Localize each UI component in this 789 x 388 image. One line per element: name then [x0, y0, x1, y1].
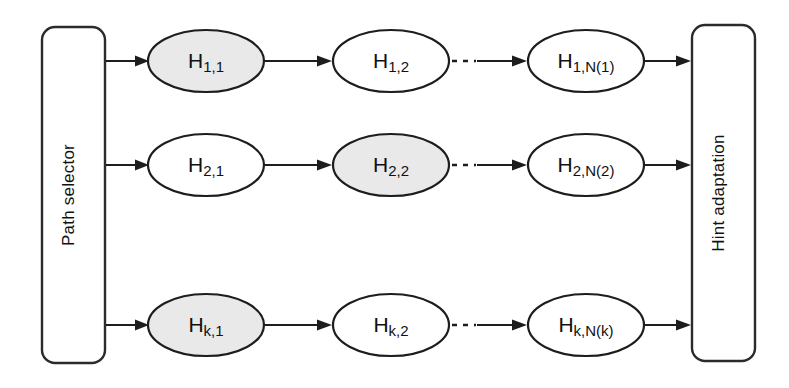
edge-node-2-3-to-hint-adaptation [644, 160, 691, 171]
node-h-1-2[interactable]: H1,2 [333, 30, 449, 92]
edge-node-1-3-to-hint-adaptation [644, 56, 691, 67]
edge-node-1-2-to-node-1-3 [452, 56, 527, 67]
edge-selector-to-node-1-1 [106, 56, 149, 67]
node-h-2-2[interactable]: H2,2 [333, 134, 449, 196]
arrow-head-icon [317, 320, 332, 331]
diagram-canvas: Path selector Hint adaptation H1,1 [0, 0, 789, 388]
hint-adaptation-label: Hint adaptation [709, 134, 728, 251]
hint-adaptation-block[interactable]: Hint adaptation [692, 25, 755, 361]
arrow-head-icon [512, 56, 527, 67]
edge-node-k-3-to-hint-adaptation [644, 320, 691, 331]
node-h-k-1[interactable]: Hk,1 [148, 294, 264, 356]
path-1-row: H1,1 H1,2 H1,N(1) [106, 30, 691, 92]
node-h-2-1[interactable]: H2,1 [148, 134, 264, 196]
edge-node-2-2-to-node-2-3 [452, 160, 527, 171]
node-h-2-N2[interactable]: H2,N(2) [528, 134, 644, 196]
edge-node-1-1-to-node-1-2 [264, 56, 332, 67]
path-2-row: H2,1 H2,2 H2,N(2) [106, 134, 691, 196]
arrow-head-icon [317, 160, 332, 171]
arrow-head-icon [676, 56, 691, 67]
arrow-head-icon [512, 160, 527, 171]
arrow-head-icon [512, 320, 527, 331]
edge-node-k-2-to-node-k-3 [452, 320, 527, 331]
node-h-1-1[interactable]: H1,1 [148, 30, 264, 92]
path-k-row: Hk,1 Hk,2 Hk,N(k) [106, 294, 691, 356]
arrow-head-icon [317, 56, 332, 67]
node-h-k-2[interactable]: Hk,2 [333, 294, 449, 356]
edge-selector-to-node-2-1 [106, 160, 149, 171]
arrow-head-icon [676, 320, 691, 331]
node-h-k-Nk[interactable]: Hk,N(k) [528, 294, 644, 356]
edge-selector-to-node-k-1 [106, 320, 149, 331]
node-h-1-N1[interactable]: H1,N(1) [528, 30, 644, 92]
path-selector-label: Path selector [59, 144, 78, 246]
path-selector-block[interactable]: Path selector [42, 27, 105, 363]
arrow-head-icon [676, 160, 691, 171]
edge-node-k-1-to-node-k-2 [264, 320, 332, 331]
diagram-svg: Path selector Hint adaptation H1,1 [0, 0, 789, 388]
edge-node-2-1-to-node-2-2 [264, 160, 332, 171]
